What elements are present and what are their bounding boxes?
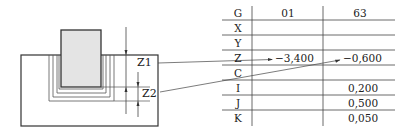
arrow-down-icon [137,82,140,87]
row-code-z: Z [225,51,251,65]
cell-k-col2: 0,050 [348,111,378,125]
row-code-c: C [225,66,251,80]
arrow-up-icon [137,101,140,106]
header-g: G [225,6,251,20]
electrode [61,30,101,87]
arrow-right-icon [268,58,273,61]
label-z1: Z1 [137,56,152,69]
cell-i-col2: 0,200 [348,81,378,95]
label-z2: Z2 [142,87,157,100]
header-col2: 63 [324,6,396,20]
row-code-j: J [225,96,251,110]
row-code-x: X [225,21,251,35]
leader-line-z1 [158,60,272,64]
row-code-y: Y [225,36,251,50]
row-code-i: I [225,81,251,95]
cell-j-col2: 0,500 [348,96,378,110]
cell-z-col1: −3,400 [275,51,314,65]
arrow-right-icon [335,60,341,63]
row-code-k: K [225,111,251,125]
cell-z-col2: −0,600 [343,51,382,65]
header-col1: 01 [253,6,323,20]
arrow-up-icon [125,87,128,92]
arrow-down-icon [125,50,128,55]
